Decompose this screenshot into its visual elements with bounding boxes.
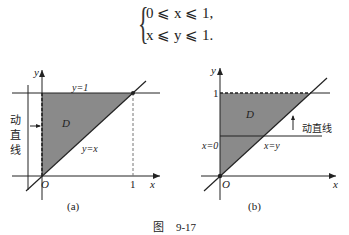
origin-label-b: O [222,178,230,190]
region-label-b: D [246,108,254,120]
diagrams [0,0,349,235]
figure-title: 图9-17 [0,218,349,234]
y-axis-arrow-icon [39,70,45,77]
figure-label: 图 [153,221,164,234]
region-label-a: D [62,117,70,129]
line-diag-label-b: x=y [264,140,280,151]
x-axis-label-a: x [150,178,155,190]
line-top-label-a: y=1 [72,82,88,93]
y-axis-arrow-icon [217,68,223,75]
line-left-label-b: x=0 [202,140,218,151]
x-axis-label-b: x [333,178,338,190]
arrow-right-icon [36,124,41,128]
y-axis-label-b: y [211,64,216,76]
caption-a: (a) [67,200,79,212]
moving-line-label-b: 动直线 [302,120,332,135]
figure-number: 9-17 [176,221,196,233]
arrow-up-icon [291,115,295,120]
line-diag-label-a: y=x [82,143,98,154]
tick-x-label-a: 1 [130,178,136,190]
caption-b: (b) [248,200,261,212]
moving-line-label-a: 动直线 [10,113,22,158]
origin-label-a: O [41,178,49,190]
y-axis-label-a: y [34,66,39,78]
tick-y-label-b: 1 [213,87,219,99]
